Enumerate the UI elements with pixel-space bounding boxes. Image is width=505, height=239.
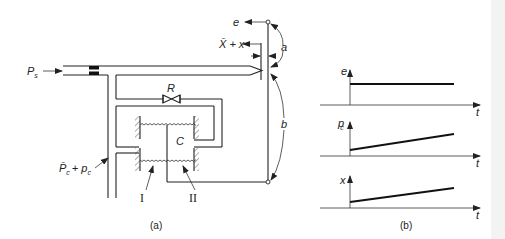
t-label-x: t — [476, 209, 480, 221]
wall-hatch-left-top — [135, 116, 140, 139]
pneumatic-controller-figure: Ps R — [0, 0, 505, 239]
flapper-bottom-pivot — [266, 180, 270, 184]
orifice-top — [89, 66, 99, 70]
arm-a-arrow-down-icon — [271, 51, 283, 67]
panel-b-plots: e t pc t x t (b) — [320, 65, 480, 231]
x-ramp-curve — [350, 188, 454, 202]
bellows-1-arrow-icon — [146, 166, 153, 190]
pc-ramp-curve — [350, 134, 454, 150]
panel-a-caption: (a) — [150, 220, 162, 231]
orifice-bottom — [89, 72, 99, 76]
valve-right-triangle — [172, 95, 181, 103]
wall-hatch-right-bottom — [194, 148, 199, 171]
restrictor-label: R — [167, 82, 175, 94]
plot-pc: pc t — [320, 117, 480, 169]
y-label-pc: pc — [337, 117, 344, 131]
nozzle-tip — [250, 66, 262, 75]
t-label-e: t — [476, 106, 480, 118]
lever-arm-a-label: a — [281, 41, 287, 53]
t-label-pc: t — [476, 157, 480, 169]
bellows-top — [140, 124, 196, 126]
bellows-2-label: II — [189, 191, 197, 205]
page-edge — [491, 0, 505, 239]
y-label-e: e — [341, 65, 347, 77]
control-pressure-label: P̄c+ pc — [59, 162, 91, 176]
control-pressure-arrow-icon — [95, 158, 108, 168]
output-e-label: e — [233, 16, 239, 28]
flapper-top-pivot — [266, 20, 270, 24]
bellows-2-arrow-icon — [183, 166, 195, 190]
capacitance-label: C — [176, 135, 184, 147]
bellows-1-label: I — [140, 191, 144, 205]
plot-e: e t — [320, 65, 480, 118]
supply-pressure-label: Ps — [27, 65, 38, 79]
panel-b-caption: (b) — [400, 220, 412, 231]
arm-b-arrow-up-icon — [271, 74, 284, 118]
lever-arm-b-label: b — [281, 118, 287, 130]
nozzle-position-label: X̄ + x — [218, 38, 245, 50]
bellows-bottom — [140, 160, 196, 162]
wall-hatch-left-bottom — [135, 148, 140, 171]
wall-hatch-right-top — [194, 116, 199, 139]
arm-b-arrow-down-icon — [271, 130, 284, 180]
plot-x: x t — [320, 174, 480, 221]
y-label-x: x — [339, 174, 346, 186]
panel-a-schematic: Ps R — [27, 16, 287, 231]
